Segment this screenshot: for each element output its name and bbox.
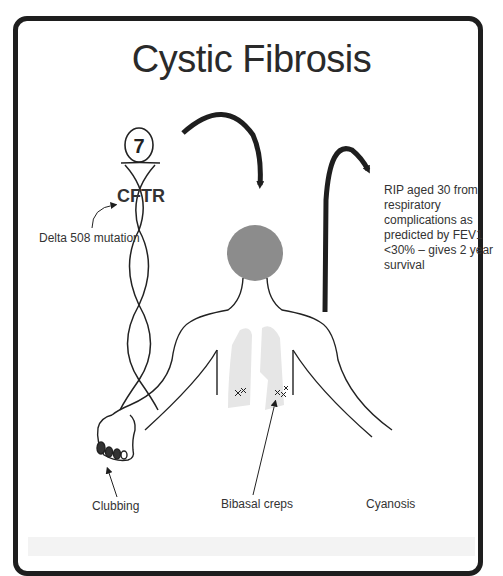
lungs-shape [228, 326, 284, 410]
faded-footer-block [28, 537, 475, 556]
curved-arrow-down [183, 114, 260, 185]
body-outline [112, 278, 392, 437]
clubbing-label: Clubbing [92, 499, 139, 513]
curved-arrow-up [325, 149, 368, 312]
mutation-label: Delta 508 mutation [39, 231, 140, 245]
chromosome-number: 7 [133, 135, 144, 157]
mutation-pointer-arrow [92, 205, 114, 228]
prognosis-note: RIP aged 30 from respiratory complicatio… [384, 183, 494, 273]
clubbing-pointer-arrow [108, 470, 117, 497]
gene-label: CFTR [117, 186, 165, 206]
cyanosis-label: Cyanosis [366, 497, 415, 511]
clubbed-hand-icon [97, 415, 135, 460]
bibasal-creps-label: Bibasal creps [221, 497, 293, 511]
head-shape [227, 225, 283, 281]
creps-pointer-arrow [253, 403, 275, 495]
